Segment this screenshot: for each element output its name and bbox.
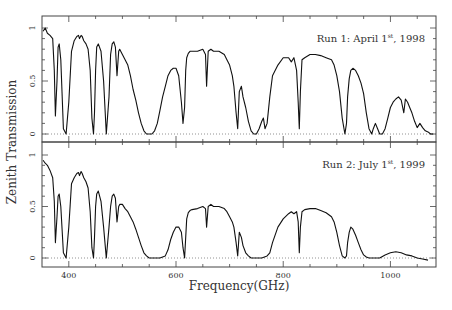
y-tick-label: 0.5	[28, 75, 37, 88]
panel-top: 00.51Run 1: April 1st, 1998	[28, 16, 436, 142]
run-annotation: Run 2: July 1st, 1999	[322, 158, 425, 170]
x-tick-label: 1000	[380, 271, 400, 280]
y-tick-label: 0	[28, 131, 37, 136]
x-tick-label: 400	[61, 271, 76, 280]
y-tick-label: 0.5	[28, 200, 37, 213]
y-tick-label: 1	[28, 152, 37, 157]
y-tick-label: 0	[28, 255, 37, 260]
panel-bottom: 00.514006008001000Run 2: July 1st, 1999	[28, 142, 436, 280]
x-tick-label: 600	[168, 271, 183, 280]
run-annotation: Run 1: April 1st, 1998	[317, 32, 425, 44]
y-axis-label: Zenith Transmission	[5, 79, 19, 204]
y-tick-label: 1	[28, 25, 37, 30]
x-axis-label: Frequency(GHz)	[189, 279, 290, 293]
transmission-curve	[43, 160, 428, 260]
chart-figure: 00.51Run 1: April 1st, 199800.5140060080…	[0, 0, 452, 310]
